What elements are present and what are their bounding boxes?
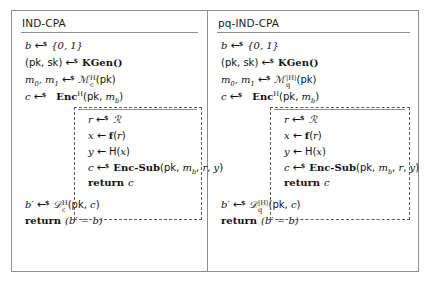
code-line-return-guess: return (b′ = b) xyxy=(12,215,207,232)
assign-arrow-icon: ← xyxy=(293,129,302,142)
enc-arguments: (pk, mb) xyxy=(279,91,319,102)
code-line-enc-sub: c ←$ Enc-Sub(pk, mb, r, y) xyxy=(208,161,419,177)
var-y: y xyxy=(88,146,94,157)
code-line-keygen: (pk, sk) ←$ KGen() xyxy=(208,56,419,73)
keypair-tuple: (pk, sk) xyxy=(25,57,62,68)
var-x: x xyxy=(88,130,94,141)
var-b-prime: b′ xyxy=(25,199,34,210)
panel-title-ind-cpa: IND-CPA xyxy=(12,17,207,32)
code-line-x-assign: x ← f(r) xyxy=(12,129,207,145)
h-argument: (x) xyxy=(116,146,129,157)
enc-arguments: (pk, mb) xyxy=(83,91,123,102)
var-c: c xyxy=(88,162,94,173)
return-value-c: c xyxy=(128,177,134,188)
enc-header-rule xyxy=(274,109,405,110)
code-line-encrypt: c ←$ EncH(pk, mb) xyxy=(208,90,419,107)
enc-sub-call-name: Enc-Sub xyxy=(309,162,356,173)
return-guess-expression: (b′ = b) xyxy=(261,215,299,226)
m-argument-pk: (pk) xyxy=(96,74,116,85)
kgen-call: KGen() xyxy=(82,57,122,68)
enc-header-rule xyxy=(78,109,197,110)
random-assign-icon: ←$ xyxy=(233,198,247,211)
var-c: c xyxy=(284,162,290,173)
f-argument: (r) xyxy=(113,130,126,141)
panel-title-pq-ind-cpa: pq-IND-CPA xyxy=(208,17,419,32)
m-argument-pk: (pk) xyxy=(297,74,317,85)
code-line-y-assign: y ← H(x) xyxy=(208,145,419,161)
return-keyword: return xyxy=(284,177,320,188)
script-m-adversary: ℳ xyxy=(274,74,285,85)
f-argument: (r) xyxy=(309,130,322,141)
var-b: b xyxy=(221,40,227,51)
script-m-adversary: ℳ xyxy=(78,74,89,85)
code-line-x-assign: x ← f(r) xyxy=(208,129,419,145)
script-r-randomness-space: ℛ xyxy=(113,114,121,125)
var-r: r xyxy=(88,114,93,125)
d-arguments: (pk, c) xyxy=(268,199,300,210)
kgen-call: KGen() xyxy=(278,57,318,68)
return-guess-expression: (b′ = b) xyxy=(65,215,103,226)
hash-oracle-h: H xyxy=(109,146,117,157)
var-b-prime: b′ xyxy=(221,199,230,210)
return-keyword: return xyxy=(221,215,257,226)
code-line-message-oracle: m0, m1 ←$ ℳHc(pk) xyxy=(12,73,207,90)
m-sub-sup-quantum: |H⟩q xyxy=(286,78,297,91)
random-assign-icon: ←$ xyxy=(230,90,244,103)
var-c: c xyxy=(25,91,31,102)
game-panel-ind-cpa: IND-CPA b ←$ {0, 1} (pk, sk) ←$ KGen() m… xyxy=(12,11,208,271)
assign-arrow-icon: ← xyxy=(293,145,302,158)
code-line-sample-r: r ←$ ℛ xyxy=(12,113,207,129)
random-assign-icon: ←$ xyxy=(62,73,76,86)
d-sub-sup-classical: Hc xyxy=(62,203,68,216)
m-sub-sup-classical: Hc xyxy=(90,78,96,91)
return-value-c: c xyxy=(324,177,330,188)
code-line-distinguisher: b′ ←$ 𝒟|H⟩q(pk, c) xyxy=(208,198,419,215)
random-assign-icon: ←$ xyxy=(292,113,306,126)
var-y: y xyxy=(284,146,290,157)
keypair-tuple: (pk, sk) xyxy=(221,57,258,68)
script-d-distinguisher: 𝒟 xyxy=(53,199,61,211)
random-assign-icon: ←$ xyxy=(34,90,48,103)
random-assign-icon: ←$ xyxy=(37,198,51,211)
code-line-return-guess: return (b′ = b) xyxy=(208,215,419,232)
var-r: r xyxy=(284,114,289,125)
random-assign-icon: ←$ xyxy=(65,56,79,69)
random-assign-icon: ←$ xyxy=(261,56,275,69)
set-zero-one: {0, 1} xyxy=(51,40,83,51)
code-line-sample-b: b ←$ {0, 1} xyxy=(12,39,207,56)
code-line-return-c: return c xyxy=(208,177,419,193)
messages-m0-m1: m0, m1 xyxy=(25,74,59,85)
random-assign-icon: ←$ xyxy=(97,161,111,174)
script-r-randomness-space: ℛ xyxy=(309,114,317,125)
pseudocode-body-pq-ind-cpa: b ←$ {0, 1} (pk, sk) ←$ KGen() m0, m1 ←$… xyxy=(208,33,419,232)
random-assign-icon: ←$ xyxy=(34,39,48,52)
messages-m0-m1: m0, m1 xyxy=(221,74,255,85)
var-x: x xyxy=(284,130,290,141)
game-panel-pq-ind-cpa: pq-IND-CPA b ←$ {0, 1} (pk, sk) ←$ KGen(… xyxy=(208,11,419,271)
code-line-y-assign: y ← H(x) xyxy=(12,145,207,161)
script-d-distinguisher: 𝒟 xyxy=(249,199,257,211)
d-arguments: (pk, c) xyxy=(68,199,100,210)
enc-sub-arguments: (pk, mb, r, y) xyxy=(356,162,419,173)
code-line-distinguisher: b′ ←$ 𝒟Hc(pk, c) xyxy=(12,198,207,215)
random-assign-icon: ←$ xyxy=(230,39,244,52)
code-line-encrypt: c ←$ EncH(pk, mb) xyxy=(12,90,207,107)
pseudocode-body-ind-cpa: b ←$ {0, 1} (pk, sk) ←$ KGen() m0, m1 ←$… xyxy=(12,33,207,232)
h-argument: (x) xyxy=(312,146,325,157)
random-assign-icon: ←$ xyxy=(96,113,110,126)
game-comparison-figure: IND-CPA b ←$ {0, 1} (pk, sk) ←$ KGen() m… xyxy=(11,10,419,272)
enc-call-name: Enc xyxy=(252,91,273,102)
code-line-keygen: (pk, sk) ←$ KGen() xyxy=(12,56,207,73)
d-sub-sup-quantum: |H⟩q xyxy=(258,203,269,216)
code-line-message-oracle: m0, m1 ←$ ℳ|H⟩q(pk) xyxy=(208,73,419,90)
var-c: c xyxy=(221,91,227,102)
code-line-enc-sub: c ←$ Enc-Sub(pk, mb, r, y) xyxy=(12,161,207,177)
enc-call-name: Enc xyxy=(56,91,77,102)
set-zero-one: {0, 1} xyxy=(247,40,279,51)
enc-sub-call-name: Enc-Sub xyxy=(113,162,160,173)
assign-arrow-icon: ← xyxy=(97,145,106,158)
code-line-sample-r: r ←$ ℛ xyxy=(208,113,419,129)
return-keyword: return xyxy=(25,215,61,226)
random-assign-icon: ←$ xyxy=(258,73,272,86)
code-line-sample-b: b ←$ {0, 1} xyxy=(208,39,419,56)
